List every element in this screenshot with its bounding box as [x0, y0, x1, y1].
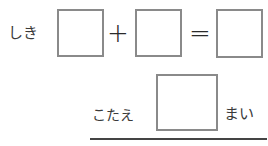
answer-box[interactable]: [156, 74, 218, 131]
result-box[interactable]: [216, 9, 263, 58]
operand-1-box[interactable]: [57, 9, 104, 57]
expression-label: しき: [8, 23, 38, 43]
answer-underline: [90, 138, 267, 140]
operand-2-box[interactable]: [135, 9, 182, 57]
answer-label: こたえ: [92, 105, 134, 125]
equals-sign: =: [189, 20, 211, 46]
plus-sign: +: [107, 20, 129, 46]
answer-unit: まい: [224, 104, 254, 124]
